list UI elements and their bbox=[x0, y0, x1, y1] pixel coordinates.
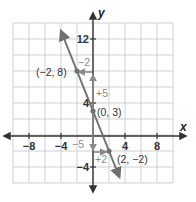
x-tick-label: −8 bbox=[23, 140, 36, 152]
annotation-plus-5: +5 bbox=[96, 87, 108, 99]
x-axis-label: x bbox=[179, 120, 188, 134]
point-label-2-neg2: (2, −2) bbox=[117, 153, 148, 165]
data-point bbox=[74, 68, 79, 73]
annotation-plus-2: +2 bbox=[95, 153, 107, 165]
point-label-0-3: (0, 3) bbox=[97, 106, 122, 118]
y-axis-label: y bbox=[97, 6, 106, 20]
y-tick-label: 12 bbox=[77, 33, 89, 45]
graph-line bbox=[61, 31, 119, 177]
x-tick-label: 4 bbox=[122, 140, 129, 152]
y-tick-label: −4 bbox=[76, 161, 89, 173]
x-tick-label: 8 bbox=[154, 140, 160, 152]
annotation-minus-5: −5 bbox=[72, 138, 84, 150]
point-label-neg2-8: (−2, 8) bbox=[36, 66, 67, 78]
coordinate-plane: x y −8−448 124−4 −2 +5 −5 +2 (−2, 8) (0,… bbox=[0, 0, 196, 202]
data-point bbox=[106, 148, 111, 153]
data-point bbox=[90, 108, 95, 113]
x-tick-label: −4 bbox=[55, 140, 68, 152]
annotation-minus-2: −2 bbox=[78, 56, 90, 68]
